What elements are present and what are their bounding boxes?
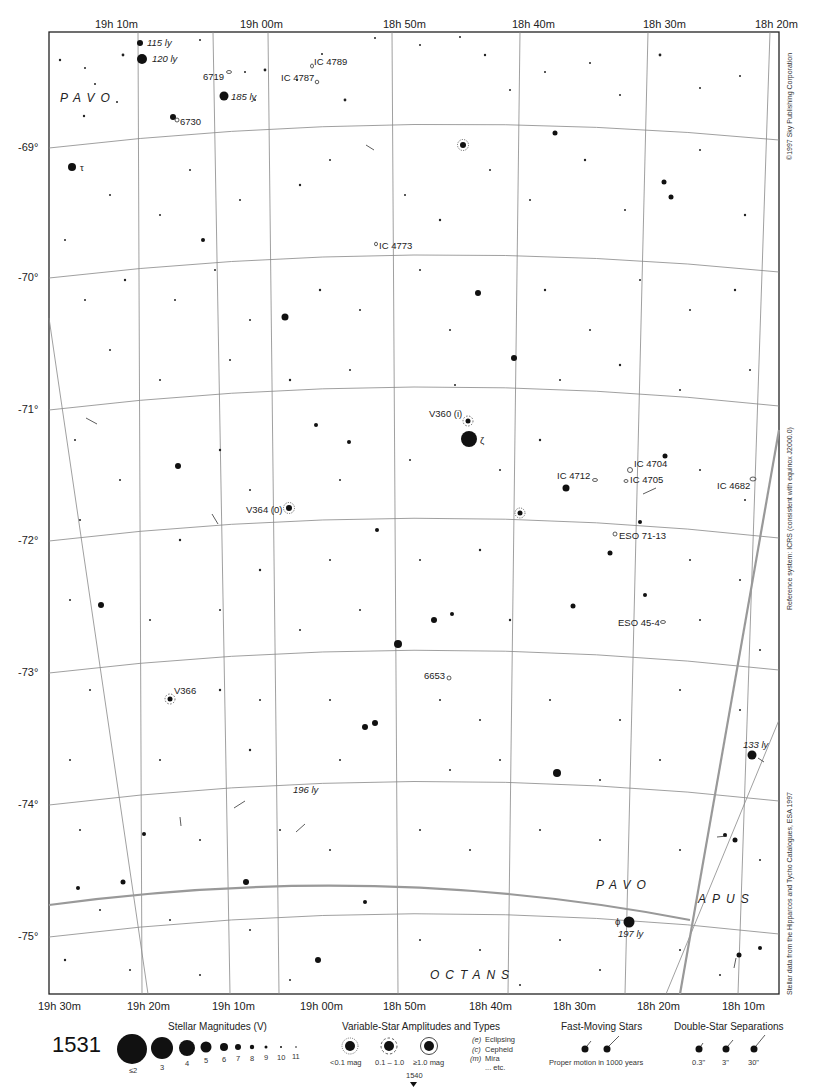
object-label: IC 4682 (717, 480, 750, 491)
dec-axis: -69° -70° -71° -72° -73° -74° -75° (18, 141, 38, 942)
distance-label: 133 ly (743, 739, 770, 750)
next-page-number: 1540 (406, 1071, 423, 1080)
magnitude-label: 3 (160, 1063, 164, 1072)
deep-sky-objects (175, 64, 756, 680)
object-label: IC 4704 (634, 458, 667, 469)
object-label: ESO 45-4 (618, 617, 660, 628)
ra-label: 18h 20m (637, 1000, 680, 1012)
object-label: IC 4787 (281, 72, 314, 83)
dec-label: -69° (18, 141, 38, 153)
ra-label: 19h 20m (127, 1000, 170, 1012)
map-labels: 115 ly 120 ly 185 ly 6719 6730 IC 4789 I… (80, 37, 770, 939)
fast-moving-legend: Fast-Moving Stars Proper motion in 1000 … (549, 1021, 643, 1067)
variable-label: V364 (0) (246, 504, 282, 515)
separation-label: 30" (748, 1058, 759, 1067)
ra-grid (49, 32, 779, 994)
variable-star-legend: Variable-Star Amplitudes and Types <0.1 … (330, 1021, 515, 1087)
ra-label: 18h 20m (755, 18, 798, 30)
double-star-legend: Double-Star Separations 0.3" 3" 30" (674, 1021, 784, 1067)
variable-label: V360 (i) (429, 408, 462, 419)
object-label: ESO 71-13 (619, 530, 666, 541)
object-label: IC 4789 (314, 56, 347, 67)
distance-label: 185 ly (231, 91, 258, 102)
magnitude-label: 9 (264, 1053, 268, 1062)
declination-grid (49, 124, 779, 937)
object-label: 6719 (203, 71, 224, 82)
constellation-label: OCTANS (430, 968, 515, 982)
fast-moving-caption: Proper motion in 1000 years (549, 1058, 643, 1067)
magnitude-label: 11 (292, 1052, 300, 1061)
ra-label: 18h 30m (553, 1000, 596, 1012)
variable-type-name: Cepheid (485, 1045, 513, 1054)
object-label: IC 4712 (557, 470, 590, 481)
separation-label: 0.3" (692, 1058, 705, 1067)
ra-label: 18h 50m (383, 1000, 426, 1012)
amplitude-label: <0.1 mag (330, 1058, 361, 1067)
magnitude-label: 10 (277, 1053, 285, 1062)
variable-stars (165, 140, 525, 705)
ra-axis-bottom: 19h 30m 19h 20m 19h 10m 19h 00m 18h 50m … (38, 1000, 765, 1012)
ra-axis-top: 19h 10m 19h 00m 18h 50m 18h 40m 18h 30m … (95, 18, 798, 30)
ra-label: 18h 50m (383, 18, 426, 30)
stars (68, 40, 762, 963)
proper-motion-vectors (86, 145, 764, 968)
chart-frame (49, 32, 779, 994)
magnitude-label: 4 (185, 1059, 189, 1068)
dec-label: -73° (18, 666, 38, 678)
variable-type-name: Eclipsing (485, 1035, 515, 1044)
separation-label: 3" (722, 1058, 729, 1067)
object-label: IC 4705 (630, 474, 663, 485)
ra-label: 18h 40m (469, 1000, 512, 1012)
bayer-label: τ (80, 162, 84, 173)
page-number: 1531 (52, 1032, 101, 1057)
legend-title: Variable-Star Amplitudes and Types (342, 1021, 500, 1032)
field-stars (59, 36, 761, 986)
constellation-boundaries (49, 430, 779, 994)
legend-title: Stellar Magnitudes (V) (168, 1021, 267, 1032)
ra-label: 18h 10m (722, 1000, 765, 1012)
legend-title: Fast-Moving Stars (561, 1021, 642, 1032)
magnitude-label: 7 (236, 1054, 240, 1063)
variable-label: V366 (174, 685, 196, 696)
reference-note: Reference system: ICRS (consistent with … (786, 427, 794, 610)
object-label: 6653 (424, 670, 445, 681)
dec-label: -71° (18, 403, 38, 415)
constellation-label: APUS (697, 892, 755, 906)
ra-label: 18h 30m (643, 18, 686, 30)
copyright-note: ©1997 Sky Publishing Corporation (786, 53, 794, 160)
ra-label: 19h 00m (300, 1000, 343, 1012)
ra-label: 19h 00m (240, 18, 283, 30)
ra-label: 19h 10m (212, 1000, 255, 1012)
amplitude-label: 0.1 – 1.0 (375, 1058, 404, 1067)
legend: 1531 Stellar Magnitudes (V) ≤2 3 4 5 6 7… (52, 1021, 784, 1087)
variable-type-code: (c) (472, 1045, 481, 1054)
bayer-label: ζ (480, 435, 485, 446)
object-label: IC 4773 (379, 240, 412, 251)
object-label: 6730 (180, 116, 201, 127)
magnitude-legend: Stellar Magnitudes (V) ≤2 3 4 5 6 7 8 9 … (117, 1021, 300, 1075)
magnitude-label: ≤2 (129, 1066, 137, 1075)
side-notes: ©1997 Sky Publishing Corporation Referen… (786, 53, 794, 995)
magnitude-label: 6 (222, 1055, 226, 1064)
legend-title: Double-Star Separations (674, 1021, 784, 1032)
data-source-note: Stellar data from the Hipparcos and Tych… (786, 792, 794, 995)
magnitude-label: 5 (204, 1056, 208, 1065)
dec-label: -72° (18, 534, 38, 546)
variable-type-code: (m) (470, 1054, 482, 1063)
distance-label: 115 ly (147, 37, 173, 48)
amplitude-label: ≥1.0 mag (413, 1058, 444, 1067)
ra-label: 18h 40m (512, 18, 555, 30)
distance-label: 197 ly (618, 928, 645, 939)
star-chart: 19h 10m 19h 00m 18h 50m 18h 40m 18h 30m … (0, 0, 813, 1092)
variable-type-name: ... etc. (485, 1063, 505, 1072)
constellation-label: PAVO (60, 91, 116, 105)
bayer-label: ϕ (615, 916, 620, 927)
dec-label: -74° (18, 798, 38, 810)
variable-type-name: Mira (485, 1054, 500, 1063)
variable-type-code: (e) (472, 1035, 482, 1044)
distance-label: 196 ly (293, 784, 320, 795)
dec-label: -75° (18, 930, 38, 942)
distance-label: 120 ly (152, 53, 179, 64)
magnitude-label: 8 (250, 1054, 254, 1063)
ra-label: 19h 10m (95, 18, 138, 30)
